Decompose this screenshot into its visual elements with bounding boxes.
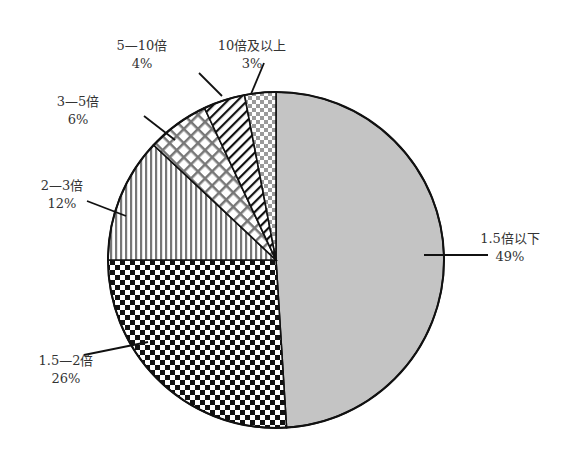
slice-value-label: 12% (48, 196, 77, 211)
leader-line (199, 73, 222, 96)
slice-category-label: 1.5倍以下 (480, 231, 540, 246)
slice-category-label: 5—10倍 (117, 38, 168, 53)
slice-category-label: 2—3倍 (41, 178, 84, 193)
slice-value-label: 26% (52, 371, 81, 386)
slice-category-label: 1.5—2倍 (39, 353, 94, 368)
slice-category-label: 10倍及以上 (218, 38, 287, 53)
slice-value-label: 4% (132, 56, 153, 71)
pie-slice (276, 92, 444, 428)
slice-value-label: 6% (68, 112, 89, 127)
pie-chart: 1.5倍以下49%1.5—2倍26%2—3倍12%3—5倍6%5—10倍4%10… (0, 0, 576, 457)
pie-slices (108, 92, 444, 428)
slice-value-label: 3% (242, 56, 263, 71)
slice-category-label: 3—5倍 (57, 94, 100, 109)
leader-line (144, 116, 175, 140)
slice-value-label: 49% (496, 249, 525, 264)
